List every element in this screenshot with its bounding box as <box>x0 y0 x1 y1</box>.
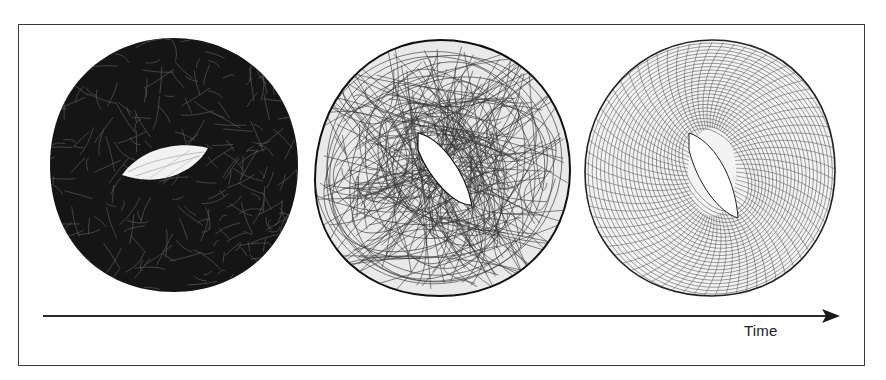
torus-regular <box>564 23 861 322</box>
time-arrow <box>43 309 840 323</box>
torus-dense <box>34 29 306 301</box>
torus-chaotic <box>283 12 604 326</box>
time-axis-label: Time <box>744 322 778 339</box>
